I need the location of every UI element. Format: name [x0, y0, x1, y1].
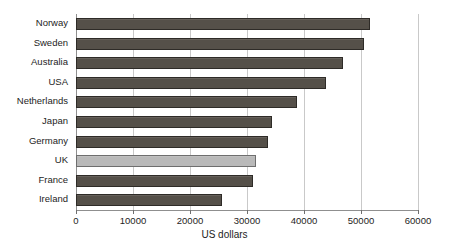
bar-france — [76, 175, 253, 187]
bar-netherlands — [76, 96, 297, 108]
category-label-france: France — [0, 175, 68, 185]
bar-ireland — [76, 194, 222, 206]
category-label-japan: Japan — [0, 116, 68, 126]
category-label-ireland: Ireland — [0, 194, 68, 204]
x-tick — [418, 210, 419, 214]
gridline — [418, 14, 419, 210]
x-tick — [133, 210, 134, 214]
bar-row — [76, 113, 418, 133]
category-label-usa: USA — [0, 77, 68, 87]
x-axis-title: US dollars — [0, 229, 449, 241]
bar-germany — [76, 136, 268, 148]
x-tick-label: 40000 — [274, 215, 334, 226]
bar-uk — [76, 155, 256, 167]
plot-area — [76, 14, 418, 210]
bar-row — [76, 152, 418, 172]
bar-japan — [76, 116, 272, 128]
bar-australia — [76, 57, 343, 69]
x-tick-label: 50000 — [331, 215, 391, 226]
category-label-norway: Norway — [0, 18, 68, 28]
x-tick — [190, 210, 191, 214]
x-tick — [361, 210, 362, 214]
bar-sweden — [76, 38, 364, 50]
bar-row — [76, 15, 418, 35]
bar-row — [76, 191, 418, 211]
category-label-sweden: Sweden — [0, 38, 68, 48]
x-tick-label: 10000 — [103, 215, 163, 226]
category-label-netherlands: Netherlands — [0, 96, 68, 106]
bar-chart: NorwaySwedenAustraliaUSANetherlandsJapan… — [0, 0, 449, 251]
bar-usa — [76, 77, 326, 89]
x-tick-label: 0 — [46, 215, 106, 226]
x-tick-label: 20000 — [160, 215, 220, 226]
bar-row — [76, 133, 418, 153]
x-tick — [76, 210, 77, 214]
bar-row — [76, 54, 418, 74]
bar-series — [76, 14, 418, 210]
category-label-germany: Germany — [0, 136, 68, 146]
bar-row — [76, 74, 418, 94]
bar-row — [76, 172, 418, 192]
category-label-uk: UK — [0, 155, 68, 165]
x-tick — [304, 210, 305, 214]
bar-row — [76, 93, 418, 113]
bar-row — [76, 35, 418, 55]
x-tick-label: 30000 — [217, 215, 277, 226]
x-tick-label: 60000 — [388, 215, 448, 226]
x-tick — [247, 210, 248, 214]
bar-norway — [76, 18, 370, 30]
category-label-australia: Australia — [0, 57, 68, 67]
